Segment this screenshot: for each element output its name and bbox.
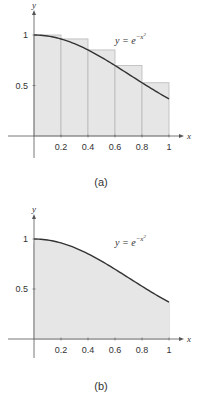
chart-panel-b: x y 0.20.40.60.81 0.51 y = e−x2 (b) — [0, 200, 206, 401]
x-tick-label: 0.6 — [109, 142, 122, 152]
function-label-lhs: y = e — [114, 35, 136, 46]
y-ticks-group: 0.51 — [15, 30, 35, 91]
x-tick-label: 0.4 — [82, 142, 95, 152]
function-label-lhs: y = e — [114, 237, 136, 248]
x-tick-label: 0.2 — [55, 345, 68, 355]
function-label: y = e−x2 — [114, 32, 146, 46]
y-tick-label: 1 — [23, 234, 28, 244]
chart-panel-a: x y 0.20.40.60.81 0.51 y = e−x2 (a) — [0, 0, 206, 200]
x-tick-label: 0.2 — [55, 142, 68, 152]
panel-caption: (a) — [94, 176, 107, 188]
x-tick-label: 1 — [166, 345, 171, 355]
x-ticks-group: 0.20.40.60.81 — [55, 135, 172, 153]
function-label-exp-sup: 2 — [143, 234, 146, 239]
y-axis-arrow — [32, 214, 36, 219]
y-axis-label: y — [31, 204, 36, 214]
x-tick-label: 1 — [166, 142, 171, 152]
x-tick-label: 0.8 — [136, 142, 149, 152]
x-axis-label: x — [186, 334, 191, 344]
x-ticks-group: 0.20.40.60.81 — [55, 338, 172, 356]
y-tick-label: 0.5 — [15, 284, 28, 294]
x-axis-label: x — [186, 131, 191, 141]
x-tick-label: 0.8 — [136, 345, 149, 355]
panel-caption: (b) — [94, 380, 107, 392]
x-tick-label: 0.4 — [82, 345, 95, 355]
function-label-exp-sup: 2 — [143, 32, 146, 37]
y-tick-label: 0.5 — [15, 81, 28, 91]
y-ticks-group: 0.51 — [15, 234, 35, 294]
x-tick-label: 0.6 — [109, 345, 122, 355]
x-axis-arrow — [179, 134, 184, 138]
curve-fill — [34, 239, 169, 339]
y-axis-arrow — [32, 10, 36, 15]
y-axis-label: y — [31, 0, 36, 10]
function-label: y = e−x2 — [114, 234, 146, 248]
x-axis-arrow — [179, 337, 184, 341]
y-tick-label: 1 — [23, 30, 28, 40]
